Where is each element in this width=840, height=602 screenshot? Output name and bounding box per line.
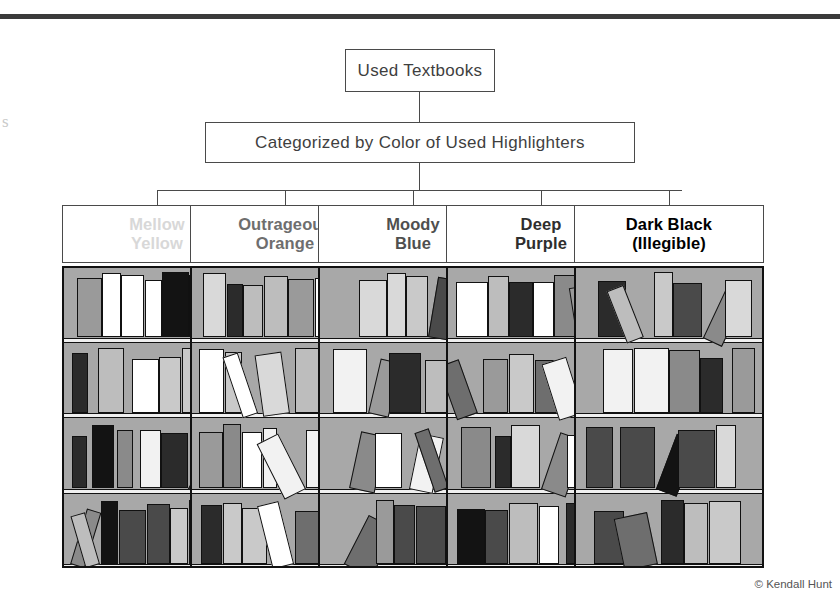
book — [243, 285, 263, 338]
book — [456, 282, 487, 337]
category-header-label: MellowYellow — [129, 215, 185, 252]
book — [586, 427, 613, 488]
margin-text-fragment: s — [2, 112, 9, 132]
category-header-label: Dark Black(Illegible) — [626, 215, 712, 252]
book — [603, 349, 634, 413]
book — [732, 348, 756, 413]
book — [673, 283, 702, 338]
book — [145, 280, 162, 337]
connector-root-to-subtitle — [419, 92, 420, 122]
book — [264, 276, 288, 338]
book — [457, 509, 485, 564]
connector-drop-dark-black — [669, 190, 670, 205]
root-node-used-textbooks: Used Textbooks — [345, 49, 495, 92]
book — [132, 359, 159, 413]
book — [227, 284, 243, 338]
figure-canvas: s Used Textbooks Categorized by Color of… — [0, 0, 840, 602]
book — [147, 504, 170, 564]
book — [406, 276, 428, 338]
book — [77, 278, 102, 338]
book — [539, 506, 559, 564]
book — [117, 430, 133, 489]
book — [140, 430, 161, 488]
book — [709, 501, 741, 564]
book — [376, 500, 394, 564]
book — [255, 351, 291, 416]
book — [92, 425, 113, 488]
book — [661, 500, 684, 564]
book — [98, 348, 124, 413]
book — [509, 354, 535, 413]
connector-drop-outrageous-orange — [285, 190, 286, 205]
copyright-credit: © Kendall Hunt — [754, 578, 832, 590]
top-rule-divider — [0, 14, 840, 19]
book — [375, 433, 402, 488]
book — [201, 505, 223, 564]
book — [288, 279, 314, 337]
connector-bus-endcap — [157, 190, 158, 191]
bookcase-dark-black — [574, 266, 764, 568]
category-header-label: MoodyBlue — [386, 215, 440, 252]
book — [199, 432, 222, 489]
book — [634, 348, 669, 413]
book — [509, 503, 539, 564]
book — [119, 510, 146, 564]
book — [495, 436, 511, 489]
book — [170, 508, 188, 564]
book — [620, 427, 655, 488]
book — [485, 510, 508, 564]
book — [684, 503, 708, 564]
book — [509, 282, 532, 338]
book — [102, 273, 120, 337]
book — [394, 505, 415, 564]
book — [203, 273, 226, 337]
book — [159, 357, 181, 413]
connector-horizontal-bus — [157, 190, 682, 191]
book — [416, 506, 446, 564]
category-header-dark-black[interactable]: Dark Black(Illegible) — [574, 205, 764, 263]
book — [654, 272, 673, 337]
connector-bus-endcap — [669, 190, 670, 191]
book — [359, 280, 386, 338]
book — [446, 359, 478, 420]
book — [101, 501, 118, 564]
book — [716, 425, 737, 489]
category-header-label: DeepPurple — [515, 215, 567, 252]
book — [242, 432, 262, 489]
book — [488, 276, 509, 337]
connector-drop-deep-purple — [541, 190, 542, 205]
book — [199, 349, 224, 413]
book — [223, 503, 242, 564]
shelf-board — [576, 413, 762, 418]
book — [161, 433, 188, 488]
shelf-board — [576, 338, 762, 343]
subtitle-node-categorized-by-color: Categorized by Color of Used Highlighter… — [205, 122, 635, 163]
book — [223, 424, 241, 488]
book — [389, 353, 420, 413]
book — [72, 436, 86, 489]
book — [162, 272, 189, 337]
connector-subtitle-to-bus — [419, 163, 420, 190]
book — [678, 430, 715, 488]
book — [669, 350, 700, 413]
book — [511, 425, 540, 488]
connector-drop-moody-blue — [413, 190, 414, 205]
book — [72, 353, 88, 413]
book — [121, 275, 144, 337]
shelf-board — [576, 564, 762, 568]
book — [700, 358, 723, 413]
book — [387, 273, 406, 337]
book — [333, 349, 367, 413]
connector-drop-mellow-yellow — [157, 190, 158, 205]
book — [483, 359, 508, 413]
book — [461, 427, 491, 489]
book — [533, 282, 554, 337]
book — [725, 280, 752, 337]
